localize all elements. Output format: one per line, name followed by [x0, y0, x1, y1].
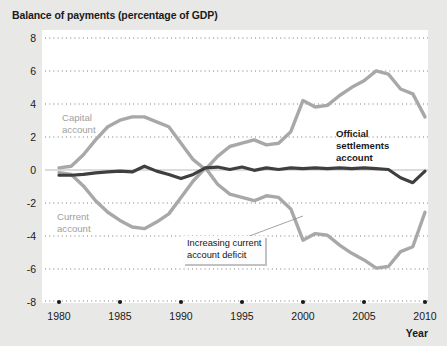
- x-tick-label: 1985: [108, 310, 132, 322]
- chart-figure: Balance of payments (percentage of GDP) …: [0, 0, 447, 346]
- annotation-line-2: account deficit: [187, 250, 261, 262]
- x-tick-dot: [301, 300, 305, 304]
- y-tick-label: 8: [30, 32, 36, 44]
- current-account-label-line1: Current: [57, 211, 89, 222]
- x-axis-title: Year: [406, 327, 428, 339]
- y-tick-label: 2: [30, 131, 36, 143]
- x-tick-label: 2005: [352, 310, 376, 322]
- x-tick-dot: [240, 300, 244, 304]
- current-account-label-line2: account: [57, 223, 91, 234]
- y-tick-label: 0: [30, 164, 36, 176]
- x-tick-label: 1990: [169, 310, 193, 322]
- y-tick-label: -8: [27, 296, 36, 308]
- official-settlements-label-line3: account: [336, 152, 374, 163]
- y-tick-label: -6: [27, 263, 36, 275]
- annotation-line-1: Increasing current: [187, 238, 261, 250]
- x-tick-label: 1980: [47, 310, 71, 322]
- x-tick-label: 1995: [230, 310, 254, 322]
- y-axis-ticks: 8 6 4 2 0 -2 -4 -6 -8: [27, 32, 37, 308]
- y-tick-label: 4: [30, 98, 36, 110]
- x-tick-dot: [362, 300, 366, 304]
- capital-account-label-line1: Capital: [62, 112, 92, 123]
- chart-plot-area: 8 6 4 2 0 -2 -4 -6 -8 1980 1985 1990 199…: [0, 0, 447, 346]
- x-tick-dot: [179, 300, 183, 304]
- x-tick-dot: [57, 300, 61, 304]
- annotation-callout: Increasing current account deficit: [183, 236, 265, 264]
- x-tick-label: 2000: [291, 310, 315, 322]
- capital-account-label-line2: account: [62, 124, 96, 135]
- y-tick-label: -2: [27, 197, 36, 209]
- y-tick-label: 6: [30, 65, 36, 77]
- y-tick-label: -4: [27, 230, 36, 242]
- x-axis-ticks: 1980 1985 1990 1995 2000 2005 2010: [47, 310, 437, 322]
- official-settlements-label-line1: Official: [336, 128, 369, 139]
- x-tick-dot: [423, 300, 427, 304]
- x-tick-label: 2010: [413, 310, 437, 322]
- official-settlements-label-line2: settlements: [336, 140, 389, 151]
- x-tick-dot: [118, 300, 122, 304]
